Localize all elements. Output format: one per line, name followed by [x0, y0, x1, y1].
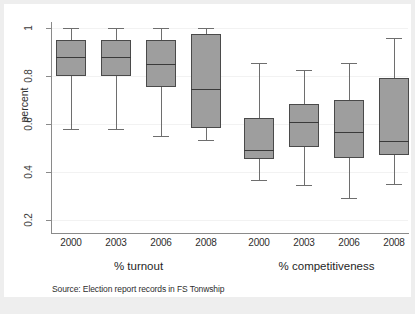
whisker-lower — [161, 87, 162, 136]
whisker-cap-lower — [386, 184, 402, 185]
whisker-cap-upper — [386, 38, 402, 39]
median-line — [289, 122, 319, 123]
whisker-cap-lower — [341, 198, 357, 199]
whisker-lower — [394, 155, 395, 184]
whisker-upper — [259, 63, 260, 118]
whisker-cap-upper — [296, 70, 312, 71]
whisker-cap-upper — [108, 28, 124, 29]
boxplot-figure: 0.20.40.60.81 percent 200020032006200820… — [0, 0, 415, 314]
iqr-box — [379, 78, 409, 155]
whisker-cap-upper — [198, 28, 214, 29]
x-tick-label: 2006 — [141, 237, 181, 248]
whisker-cap-lower — [251, 180, 267, 181]
whisker-upper — [349, 63, 350, 100]
iqr-box — [289, 104, 319, 147]
whisker-lower — [71, 76, 72, 129]
x-tick-label: 2000 — [239, 237, 279, 248]
whisker-lower — [259, 159, 260, 181]
whisker-cap-upper — [153, 28, 169, 29]
whisker-cap-lower — [198, 140, 214, 141]
whisker-lower — [349, 158, 350, 199]
iqr-box — [101, 40, 131, 76]
x-tick-label: 2008 — [186, 237, 226, 248]
iqr-box — [191, 34, 221, 128]
median-line — [56, 57, 86, 58]
median-line — [146, 64, 176, 65]
group-label: % competitiveness — [247, 260, 407, 272]
median-line — [334, 132, 364, 133]
median-line — [379, 141, 409, 142]
source-note: Source: Election report records in FS To… — [52, 284, 224, 294]
whisker-lower — [206, 128, 207, 140]
iqr-box — [56, 40, 86, 76]
x-tick-label: 2003 — [284, 237, 324, 248]
whisker-cap-lower — [108, 129, 124, 130]
whisker-cap-upper — [251, 63, 267, 64]
whisker-cap-lower — [63, 129, 79, 130]
x-tick-label: 2003 — [96, 237, 136, 248]
whisker-cap-upper — [63, 28, 79, 29]
boxplot-series — [4, 4, 411, 297]
whisker-upper — [116, 28, 117, 40]
whisker-cap-lower — [153, 136, 169, 137]
median-line — [244, 150, 274, 151]
whisker-lower — [116, 76, 117, 129]
whisker-cap-upper — [341, 63, 357, 64]
whisker-upper — [71, 28, 72, 40]
median-line — [191, 89, 221, 90]
whisker-upper — [394, 38, 395, 79]
iqr-box — [244, 118, 274, 159]
chart-canvas: 0.20.40.60.81 percent 200020032006200820… — [4, 4, 411, 297]
x-tick-label: 2000 — [51, 237, 91, 248]
whisker-cap-lower — [296, 185, 312, 186]
whisker-upper — [304, 70, 305, 104]
whisker-lower — [304, 147, 305, 185]
x-tick-label: 2008 — [374, 237, 414, 248]
iqr-box — [334, 100, 364, 158]
median-line — [101, 57, 131, 58]
x-tick-label: 2006 — [329, 237, 369, 248]
group-label: % turnout — [59, 260, 219, 272]
whisker-upper — [161, 28, 162, 40]
